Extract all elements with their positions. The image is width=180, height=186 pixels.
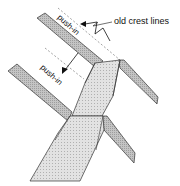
crest-leader bbox=[93, 22, 112, 26]
lower-right-band bbox=[102, 116, 135, 163]
arrow-head-lower bbox=[62, 67, 68, 74]
crest-label: old crest lines bbox=[114, 16, 170, 26]
central-upper-face bbox=[72, 60, 120, 116]
push-in-label-lower: push-in bbox=[39, 63, 65, 87]
arrow-head-upper bbox=[80, 21, 86, 27]
push-arrow-lower bbox=[65, 53, 78, 70]
right-band bbox=[118, 60, 158, 104]
folding-diagram: old crest lines push-in push-in bbox=[0, 0, 180, 186]
lower-face bbox=[30, 116, 104, 181]
